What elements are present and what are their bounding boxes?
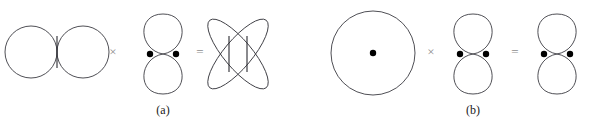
vertical-p-orbital-operand xyxy=(454,14,492,94)
center-nucleus-dot xyxy=(370,50,376,56)
multiply-operator-b: × xyxy=(424,45,438,58)
upper-lobe xyxy=(538,14,576,54)
panel-b: × = (b) xyxy=(295,0,590,124)
left-circle-lobe xyxy=(5,26,57,78)
lower-lobe xyxy=(454,54,492,94)
left-nucleus-dot xyxy=(457,51,463,57)
lower-lobe xyxy=(144,54,182,94)
left-nucleus-dot xyxy=(541,51,547,57)
panel-a-label: (a) xyxy=(133,104,193,116)
right-nucleus-dot xyxy=(173,51,179,57)
right-nucleus-dot xyxy=(567,51,573,57)
lower-lobe xyxy=(538,54,576,94)
orbital-product-figure: × = (a) xyxy=(0,0,590,124)
panel-a: × = (a) xyxy=(0,0,295,124)
lobe-upper-left xyxy=(199,11,277,96)
left-nucleus-dot xyxy=(147,51,153,57)
equals-operator-a: = xyxy=(193,45,207,58)
right-nucleus-dot xyxy=(483,51,489,57)
vertical-p-orbital-result xyxy=(538,14,576,94)
upper-lobe xyxy=(454,14,492,54)
vertical-p-orbital-operand xyxy=(144,14,182,94)
s-orbital-circle xyxy=(331,11,415,95)
equals-operator-b: = xyxy=(508,45,522,58)
horizontal-two-circle-orbital xyxy=(5,26,109,78)
right-circle-lobe xyxy=(57,26,109,78)
lobe-upper-right xyxy=(199,11,277,96)
panel-b-label: (b) xyxy=(443,104,503,116)
four-lobe-d-orbital-result xyxy=(199,11,277,96)
multiply-operator-a: × xyxy=(106,45,120,58)
upper-lobe xyxy=(144,14,182,54)
